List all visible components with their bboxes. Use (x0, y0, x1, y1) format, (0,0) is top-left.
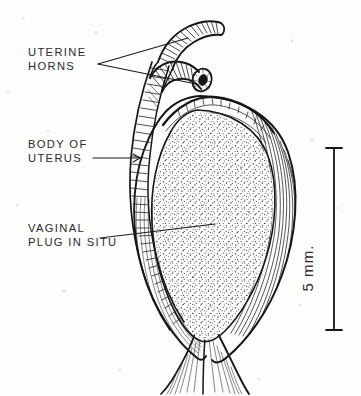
label-vaginal-plug-line1: VAGINAL (28, 222, 85, 234)
scale-bar (326, 148, 342, 330)
label-body-of-uterus-line2: UTERUS (28, 152, 82, 164)
label-vaginal-plug: VAGINAL PLUG IN SITU (28, 222, 118, 248)
label-uterine-horns-line2: HORNS (28, 60, 75, 72)
scale-bar-label: 5 mm. (299, 244, 316, 291)
label-body-of-uterus: BODY OF UTERUS (28, 138, 88, 164)
label-vaginal-plug-line2: PLUG IN SITU (28, 236, 118, 248)
label-body-of-uterus-line1: BODY OF (28, 138, 88, 150)
label-uterine-horns: UTERINE HORNS (28, 46, 87, 72)
anatomical-plate: UTERINE HORNS BODY OF UTERUS VAGINAL PLU… (0, 0, 361, 396)
label-uterine-horns-line1: UTERINE (28, 46, 87, 58)
